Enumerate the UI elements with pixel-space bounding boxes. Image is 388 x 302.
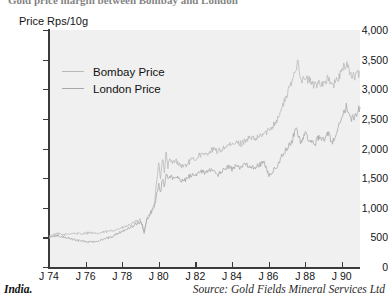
series-lines [0,0,388,302]
legend-swatch-bombay [62,71,84,72]
footer-source: Source: Gold Fields Mineral Services Ltd [193,283,385,295]
chart-legend: Bombay Price London Price [62,63,165,97]
plot-area: 05001,0001,5002,0002,5003,0003,5004,000 … [0,0,388,302]
legend-swatch-london [62,88,84,89]
legend-item-london: London Price [62,80,165,97]
series-line-london-price [49,103,360,243]
legend-label-bombay: Bombay Price [93,66,165,78]
legend-label-london: London Price [93,83,161,95]
footer-caption: India. [4,283,32,295]
chart-figure: Gold price margin between Bombay and Lon… [0,0,388,302]
legend-item-bombay: Bombay Price [62,63,165,80]
